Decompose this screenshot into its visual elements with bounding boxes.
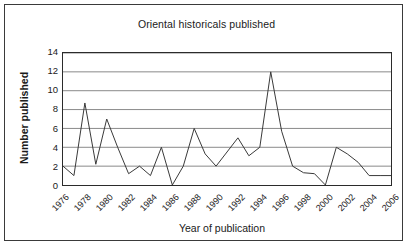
- chart-figure: Oriental historicals published Number pu…: [0, 0, 413, 250]
- y-tick-label: 12: [30, 66, 58, 76]
- plot-area: [62, 52, 392, 186]
- chart-title: Oriental historicals published: [0, 18, 413, 30]
- line-chart-svg: [63, 53, 391, 185]
- y-tick-label: 4: [30, 143, 58, 153]
- gridlines: [63, 53, 391, 166]
- x-axis-tick-labels: 1976197819801982198419861988199019921994…: [62, 188, 392, 222]
- y-tick-label: 0: [30, 181, 58, 191]
- y-axis-tick-labels: 02468101214: [28, 52, 58, 186]
- y-tick-label: 14: [30, 47, 58, 57]
- y-tick-label: 10: [30, 85, 58, 95]
- x-axis-label: Year of publication: [62, 222, 382, 234]
- y-tick-label: 8: [30, 104, 58, 114]
- y-tick-label: 6: [30, 124, 58, 134]
- y-tick-label: 2: [30, 162, 58, 172]
